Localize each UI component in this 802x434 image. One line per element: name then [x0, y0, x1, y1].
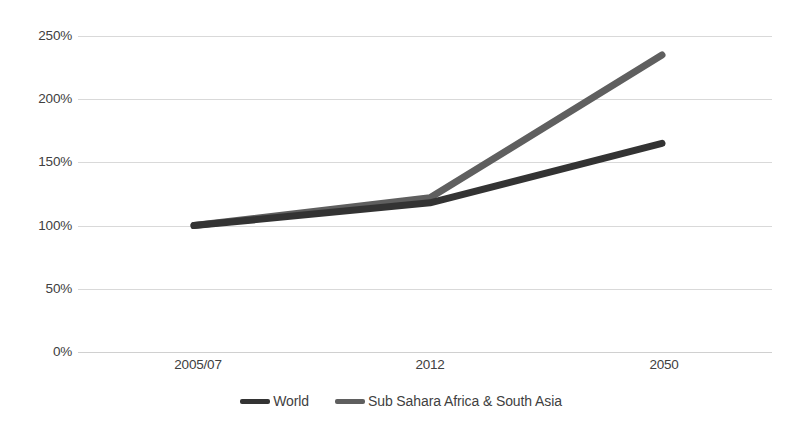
x-tick-label-2050: 2050 [649, 358, 678, 372]
legend-swatch-sub-sahara-africa-south-asia [335, 399, 365, 404]
legend-item-world: World [240, 394, 309, 408]
chart-legend: World Sub Sahara Africa & South Asia [0, 390, 802, 412]
line-chart: 250% 200% 150% 100% 50% 0% 2005/07 2012 … [0, 0, 802, 434]
legend-item-sub-sahara-africa-south-asia: Sub Sahara Africa & South Asia [335, 394, 562, 408]
x-tick-label-2012: 2012 [415, 358, 444, 372]
legend-label-world: World [273, 394, 309, 408]
legend-label-sub-sahara-africa-south-asia: Sub Sahara Africa & South Asia [368, 394, 562, 408]
series-line-world [194, 143, 662, 225]
x-axis: 2005/07 2012 2050 [0, 358, 802, 378]
x-tick-label-2005-07: 2005/07 [174, 358, 221, 372]
legend-swatch-world [240, 399, 270, 404]
